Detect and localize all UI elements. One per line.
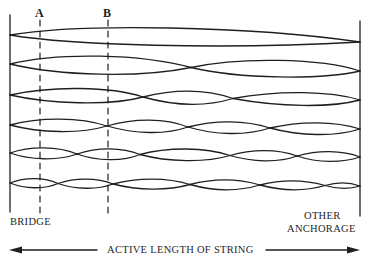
other-anchorage-label-line1: OTHER	[304, 211, 341, 222]
string-mode-3	[10, 88, 360, 105]
arrow-left-head	[9, 247, 22, 254]
marker-b-label: B	[103, 7, 111, 19]
bridge-label: BRIDGE	[10, 217, 51, 228]
string-mode-2	[10, 56, 360, 77]
string-mode-1	[10, 28, 360, 46]
string-mode-6	[10, 179, 360, 190]
string-mode-4	[10, 119, 360, 134]
active-length-label: ACTIVE LENGTH OF STRING	[107, 245, 254, 256]
marker-a-label: A	[35, 7, 44, 19]
arrow-right-head	[347, 247, 360, 254]
string-mode-5	[10, 148, 360, 162]
other-anchorage-label-line2: ANCHORAGE	[287, 224, 356, 235]
